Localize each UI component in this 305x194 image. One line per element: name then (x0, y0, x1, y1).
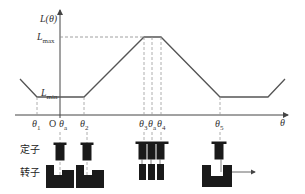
lmax-label: Lmax (37, 32, 55, 45)
theta3-label: θ3 (139, 119, 147, 132)
theta2-label: θ2 (80, 119, 88, 132)
x-axis-label: θ (280, 118, 285, 128)
y-axis-label: L(θ) (40, 14, 57, 24)
origin-label: O (49, 119, 56, 129)
inductance-profile-diagram: L(θ) θ O Lmax Lmin θ1 θa θ2 θ3 θa θ4 θ5 … (0, 0, 305, 194)
rotor-row (46, 164, 232, 188)
theta1-label: θ1 (32, 119, 40, 132)
rotor-label: 转子 (20, 168, 40, 178)
theta-a2-label: θa (148, 119, 156, 132)
theta4-label: θ4 (157, 119, 165, 132)
lmin-label: Lmin (41, 88, 57, 101)
theta5-label: θ5 (215, 119, 223, 132)
theta-a-label: θa (59, 119, 67, 132)
stator-label: 定子 (20, 145, 40, 155)
stator-row (54, 142, 226, 160)
